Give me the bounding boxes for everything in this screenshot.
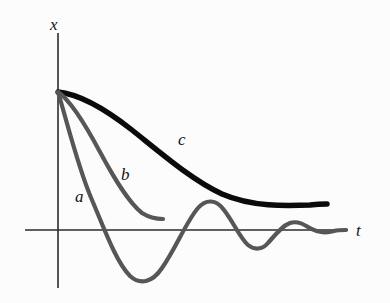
curve-label-b: b (121, 166, 130, 183)
curve-label-a: a (75, 188, 84, 205)
y-axis-label: x (50, 16, 58, 33)
x-axis-label: t (356, 222, 361, 239)
curve-a-underdamped (58, 92, 346, 281)
damping-regimes-figure: x t a b c (0, 0, 390, 303)
curve-b-critically-damped (58, 92, 163, 219)
curve-label-c: c (178, 131, 186, 148)
plot-canvas (0, 0, 390, 303)
